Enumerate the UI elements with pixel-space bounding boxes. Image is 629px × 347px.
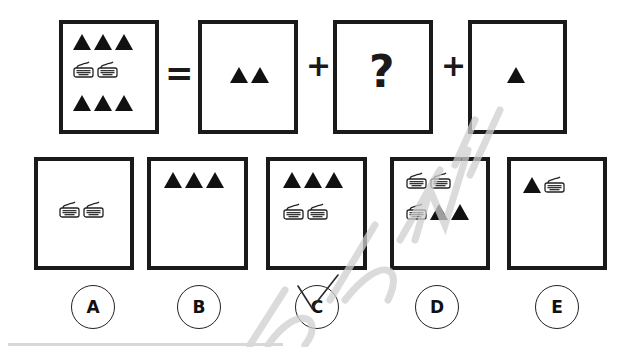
triangle-icon (325, 172, 343, 188)
question-mark: ? (369, 46, 395, 97)
triangle-row (283, 172, 343, 188)
keyboard-icon (59, 201, 80, 218)
equation-unknown-box: ? (333, 20, 433, 134)
keyboard-icon (283, 203, 304, 220)
option-c-box[interactable] (266, 157, 367, 270)
keyboard-icon (406, 172, 427, 189)
triangle-icon (115, 34, 133, 50)
triangle-icon (164, 172, 182, 188)
triangle-icon (185, 172, 203, 188)
equation-part1-box (198, 20, 298, 134)
triangle-icon (523, 177, 541, 193)
option-d-label[interactable]: D (415, 285, 459, 329)
equation-whole-box (59, 20, 159, 134)
triangle-icon (430, 204, 448, 220)
keyboard-row (283, 203, 328, 220)
keyboard-icon (430, 172, 451, 189)
keyboard-icon (73, 61, 94, 78)
triangle-row (230, 67, 269, 83)
triangle-icon (115, 95, 133, 111)
mixed-row (406, 203, 469, 220)
triangle-icon (206, 172, 224, 188)
triangle-row (507, 67, 525, 83)
keyboard-row (59, 201, 104, 218)
triangle-icon (304, 172, 322, 188)
triangle-icon (73, 95, 91, 111)
mixed-row (523, 176, 565, 193)
triangle-icon (73, 34, 91, 50)
triangle-icon (251, 67, 269, 83)
equals-sign: = (165, 53, 194, 93)
keyboard-icon (544, 176, 565, 193)
keyboard-icon (97, 61, 118, 78)
option-a-label[interactable]: A (71, 285, 115, 329)
keyboard-row (73, 61, 118, 78)
option-e-box[interactable] (507, 157, 607, 270)
keyboard-icon (406, 203, 427, 220)
keyboard-row (406, 172, 451, 189)
triangle-row-bottom (73, 95, 133, 111)
triangle-icon (94, 95, 112, 111)
option-b-box[interactable] (147, 157, 248, 270)
option-e-label[interactable]: E (535, 285, 579, 329)
triangle-icon (451, 204, 469, 220)
option-d-box[interactable] (390, 157, 490, 270)
triangle-row-top (73, 34, 133, 50)
triangle-icon (283, 172, 301, 188)
option-b-label[interactable]: B (177, 285, 221, 329)
option-a-box[interactable] (34, 157, 134, 270)
triangle-icon (507, 67, 525, 83)
triangle-icon (230, 67, 248, 83)
plus-sign-1: + (306, 48, 331, 83)
triangle-icon (94, 34, 112, 50)
equation-part3-box (468, 20, 567, 134)
checkmark-icon (290, 272, 350, 332)
plus-sign-2: + (441, 48, 466, 83)
keyboard-icon (307, 203, 328, 220)
footer-divider (8, 343, 283, 346)
triangle-row (164, 172, 224, 188)
keyboard-icon (83, 201, 104, 218)
